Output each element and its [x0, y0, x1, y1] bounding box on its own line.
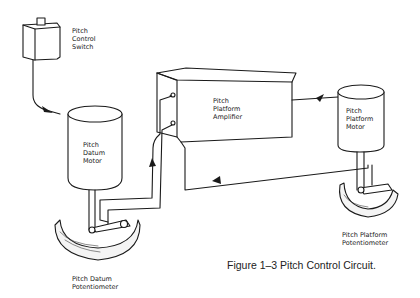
label-pitch-platform-amplifier: Pitch Platform Amplifier	[213, 97, 242, 121]
figure-caption: Figure 1–3 Pitch Control Circuit.	[227, 259, 376, 271]
label-line: Pitch Datum	[72, 275, 118, 283]
label-pitch-platform-motor: Pitch Platform Motor	[346, 107, 373, 131]
label-line: Platform	[346, 115, 373, 123]
label-line: Pitch	[72, 27, 96, 35]
label-pitch-platform-potentiometer: Pitch Platform Potentiometer	[342, 231, 388, 247]
label-line: Pitch	[346, 107, 373, 115]
label-line: Pitch Platform	[342, 231, 388, 239]
pitch-control-switch-icon	[23, 18, 60, 60]
label-line: Amplifier	[213, 113, 242, 121]
label-line: Pitch	[83, 141, 105, 149]
label-line: Motor	[346, 123, 373, 131]
label-line: Potentiometer	[72, 283, 118, 291]
pitch-platform-motor-icon	[338, 85, 384, 190]
label-line: Switch	[72, 43, 96, 51]
label-pitch-datum-potentiometer: Pitch Datum Potentiometer	[72, 275, 118, 291]
label-pitch-datum-motor: Pitch Datum Motor	[83, 141, 105, 165]
pitch-datum-motor-icon	[68, 106, 122, 230]
label-line: Datum	[83, 149, 105, 157]
label-line: Potentiometer	[342, 239, 388, 247]
label-line: Motor	[83, 157, 105, 165]
label-line: Control	[72, 35, 96, 43]
wire-switch-to-datum-motor	[33, 60, 60, 114]
pitch-datum-potentiometer-icon	[55, 220, 140, 260]
label-line: Pitch	[213, 97, 242, 105]
label-line: Platform	[213, 105, 242, 113]
pitch-platform-potentiometer-icon	[340, 183, 398, 217]
label-pitch-control-switch: Pitch Control Switch	[72, 27, 96, 51]
pitch-control-circuit-diagram	[0, 0, 420, 298]
